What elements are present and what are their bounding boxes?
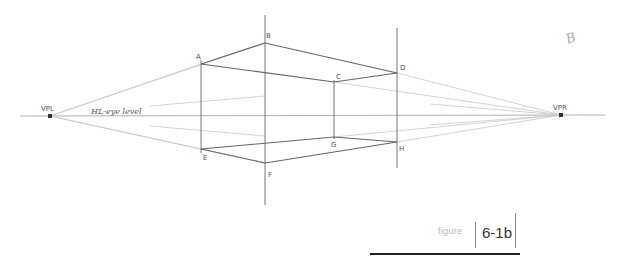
bottom-face-edges (201, 137, 397, 163)
vpl-label: VPL (41, 105, 54, 113)
vpl-construction-lines (50, 43, 265, 163)
caption-number: 6-1b (482, 224, 512, 241)
vpr-dot (559, 113, 563, 117)
horizon-label: HL-eye level (90, 107, 142, 116)
point-label-b: B (266, 32, 271, 40)
top-face-edges (201, 43, 397, 82)
corner-mark: B (563, 29, 578, 47)
vpr-label: VPR (553, 104, 567, 112)
point-label-d: D (400, 64, 405, 72)
perspective-drawing: VPL VPR HL-eye level A B C D E F G H B (0, 0, 619, 261)
point-label-h: H (399, 145, 404, 153)
point-label-a: A (196, 53, 201, 61)
vertical-edges (201, 15, 397, 205)
point-label-e: E (203, 154, 207, 162)
point-label-g: G (331, 141, 336, 149)
caption-word: figure (438, 226, 462, 236)
vpl-dot (48, 114, 52, 118)
point-label-c: C (336, 73, 341, 81)
caption-divider-right (515, 213, 516, 248)
vpr-construction-lines (334, 73, 561, 142)
caption-underline (370, 253, 520, 255)
caption-divider-left (475, 222, 476, 248)
point-label-f: F (268, 171, 272, 179)
